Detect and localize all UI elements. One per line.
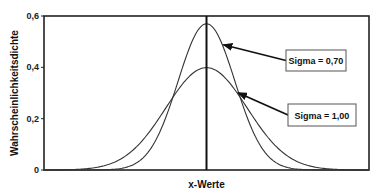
- annotation-sigma-0-70: Sigma = 0,70: [223, 45, 346, 71]
- y-tick-label: 0: [34, 165, 39, 175]
- y-tick-label: 0,6: [26, 11, 39, 21]
- annotation-label: Sigma = 0,70: [289, 56, 344, 66]
- y-axis-label: Wahrscheinlichkeitsdichte: [9, 30, 20, 156]
- x-axis-label: x-Werte: [188, 179, 225, 190]
- arrow-icon: [223, 45, 286, 61]
- normal-distribution-chart: 00,20,40,6 Sigma = 0,70Sigma = 1,00 Wahr…: [0, 0, 381, 196]
- y-tick-label: 0,2: [26, 114, 39, 124]
- annotation-label: Sigma = 1,00: [295, 111, 350, 121]
- y-tick-label: 0,4: [26, 62, 39, 72]
